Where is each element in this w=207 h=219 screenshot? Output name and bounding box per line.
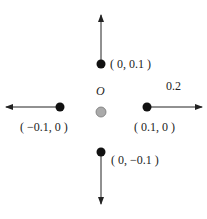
point-up-label: ( 0, 0.1 )	[110, 57, 151, 72]
point-down	[97, 148, 106, 157]
origin-label: O	[96, 84, 105, 99]
point-up	[97, 60, 106, 69]
point-down-label: ( 0, −0.1 )	[111, 153, 159, 168]
point-left-label: ( −0.1, 0 )	[20, 120, 68, 135]
point-right-label: ( 0.1, 0 )	[134, 120, 175, 135]
point-right	[143, 103, 152, 112]
origin-point	[96, 107, 106, 117]
step-label: 0.2	[166, 79, 181, 94]
diagram-svg	[0, 0, 207, 219]
diagram-canvas: O ( 0, 0.1 ) ( −0.1, 0 ) ( 0.1, 0 ) ( 0,…	[0, 0, 207, 219]
point-left	[56, 103, 65, 112]
